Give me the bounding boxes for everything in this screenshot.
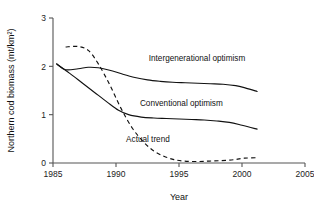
series-line-1: [57, 64, 257, 92]
x-axis-title: Year: [170, 192, 188, 202]
y-axis-title: Northern cod biomass (mt/km²): [6, 28, 16, 152]
x-tick-label: 1990: [107, 169, 126, 179]
chart-container: 198519901995200020050123YearNorthern cod…: [0, 0, 314, 210]
x-tick-label: 1985: [44, 169, 63, 179]
series-label-2: Conventional optimism: [140, 99, 223, 108]
y-tick-label: 2: [41, 62, 46, 72]
x-tick-label: 2005: [296, 169, 314, 179]
series-line-2: [57, 64, 257, 129]
x-tick-label: 1995: [170, 169, 189, 179]
line-chart: 198519901995200020050123YearNorthern cod…: [0, 0, 314, 210]
y-tick-label: 3: [41, 13, 46, 23]
series-label-1: Intergenerational optimism: [149, 54, 246, 63]
y-tick-label: 1: [41, 110, 46, 120]
y-tick-label: 0: [41, 158, 46, 168]
series-label-3: Actual trend: [126, 135, 170, 144]
x-tick-label: 2000: [233, 169, 252, 179]
